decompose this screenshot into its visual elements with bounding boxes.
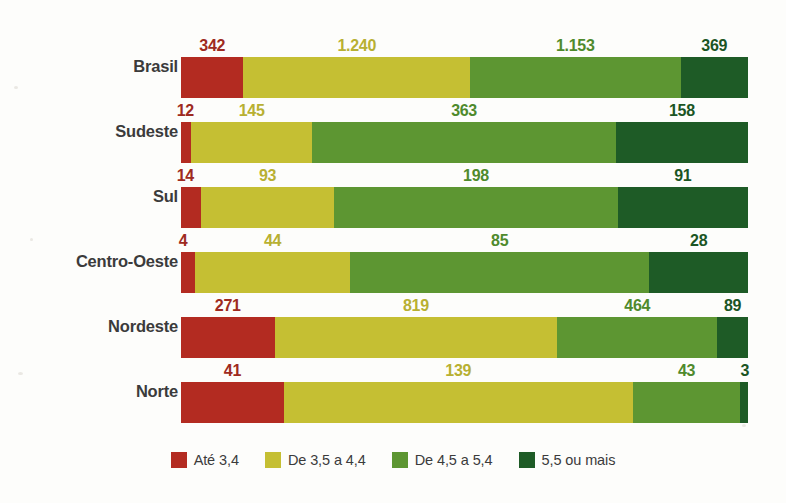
bar-segment: 28 — [649, 252, 748, 293]
chart-row: Sudeste12145363158 — [0, 97, 786, 162]
bar-segment-value-label: 271 — [215, 298, 241, 314]
stacked-bar-chart: Brasil3421.2401.153369Sudeste12145363158… — [0, 0, 786, 503]
bar-segment: 44 — [195, 252, 350, 293]
bar-segment-value-label: 43 — [678, 363, 695, 379]
chart-row: Brasil3421.2401.153369 — [0, 32, 786, 97]
bar-segment-value-label: 28 — [690, 233, 707, 249]
stacked-bar: 3421.2401.153369 — [181, 57, 748, 98]
bar-segment: 93 — [201, 187, 334, 228]
bar-segment-value-label: 91 — [674, 168, 691, 184]
bar-segment: 145 — [191, 122, 312, 163]
bar-segment-value-label: 4 — [179, 233, 188, 249]
bar-segment: 819 — [275, 317, 558, 358]
bar-segment: 3 — [740, 382, 748, 423]
stacked-bar: 149319891 — [181, 187, 748, 228]
legend-label: Até 3,4 — [194, 452, 239, 468]
row-category-label: Nordeste — [0, 317, 178, 336]
legend-swatch-icon — [519, 452, 535, 468]
bar-segment-value-label: 85 — [491, 233, 508, 249]
legend-swatch-icon — [171, 452, 187, 468]
stacked-bar: 4448528 — [181, 252, 748, 293]
bar-segment: 271 — [181, 317, 275, 358]
bar-segment: 14 — [181, 187, 201, 228]
legend-swatch-icon — [265, 452, 281, 468]
bar-segment-value-label: 1.240 — [337, 38, 376, 54]
bar-segment-value-label: 3 — [741, 363, 750, 379]
bar-segment: 41 — [181, 382, 284, 423]
legend-item[interactable]: Até 3,4 — [171, 452, 239, 468]
bar-segment: 85 — [350, 252, 649, 293]
bar-segment-value-label: 464 — [624, 298, 650, 314]
chart-row: Norte41139433 — [0, 357, 786, 422]
row-category-label: Sul — [0, 187, 178, 206]
bar-segment: 43 — [633, 382, 741, 423]
stacked-bar: 27181946489 — [181, 317, 748, 358]
bar-segment-value-label: 819 — [403, 298, 429, 314]
bar-segment: 1.240 — [243, 57, 470, 98]
bar-segment-value-label: 93 — [259, 168, 276, 184]
legend-item[interactable]: De 3,5 a 4,4 — [265, 452, 366, 468]
bar-segment: 464 — [557, 317, 717, 358]
legend-item[interactable]: 5,5 ou mais — [519, 452, 616, 468]
bar-segment: 198 — [334, 187, 618, 228]
bar-segment: 369 — [681, 57, 748, 98]
stacked-bar: 41139433 — [181, 382, 748, 423]
bar-segment: 4 — [181, 252, 195, 293]
bar-segment: 12 — [181, 122, 191, 163]
bar-segment-value-label: 198 — [463, 168, 489, 184]
bar-segment: 342 — [181, 57, 243, 98]
bar-segment-value-label: 41 — [224, 363, 241, 379]
bar-segment: 158 — [616, 122, 748, 163]
bar-segment-value-label: 89 — [724, 298, 741, 314]
chart-row: Nordeste27181946489 — [0, 292, 786, 357]
row-category-label: Brasil — [0, 57, 178, 76]
legend-label: De 4,5 a 5,4 — [415, 452, 493, 468]
bar-segment: 363 — [312, 122, 616, 163]
bar-segment-value-label: 369 — [701, 38, 727, 54]
row-category-label: Sudeste — [0, 122, 178, 141]
bar-segment: 89 — [717, 317, 748, 358]
row-category-label: Centro-Oeste — [0, 252, 178, 271]
bar-segment-value-label: 12 — [177, 103, 194, 119]
bar-segment-value-label: 44 — [264, 233, 281, 249]
chart-legend: Até 3,4De 3,5 a 4,4De 4,5 a 5,45,5 ou ma… — [0, 452, 786, 468]
chart-rows: Brasil3421.2401.153369Sudeste12145363158… — [0, 32, 786, 422]
bar-segment-value-label: 158 — [669, 103, 695, 119]
bar-segment: 1.153 — [470, 57, 681, 98]
legend-label: 5,5 ou mais — [542, 452, 616, 468]
bar-segment-value-label: 145 — [239, 103, 265, 119]
legend-swatch-icon — [392, 452, 408, 468]
bar-segment: 91 — [618, 187, 748, 228]
chart-row: Sul149319891 — [0, 162, 786, 227]
stacked-bar: 12145363158 — [181, 122, 748, 163]
legend-label: De 3,5 a 4,4 — [288, 452, 366, 468]
bar-segment-value-label: 342 — [199, 38, 225, 54]
bar-segment: 139 — [284, 382, 633, 423]
bar-segment-value-label: 139 — [445, 363, 471, 379]
bar-segment-value-label: 1.153 — [556, 38, 595, 54]
row-category-label: Norte — [0, 382, 178, 401]
bar-segment-value-label: 14 — [177, 168, 194, 184]
chart-row: Centro-Oeste4448528 — [0, 227, 786, 292]
legend-item[interactable]: De 4,5 a 5,4 — [392, 452, 493, 468]
bar-segment-value-label: 363 — [451, 103, 477, 119]
